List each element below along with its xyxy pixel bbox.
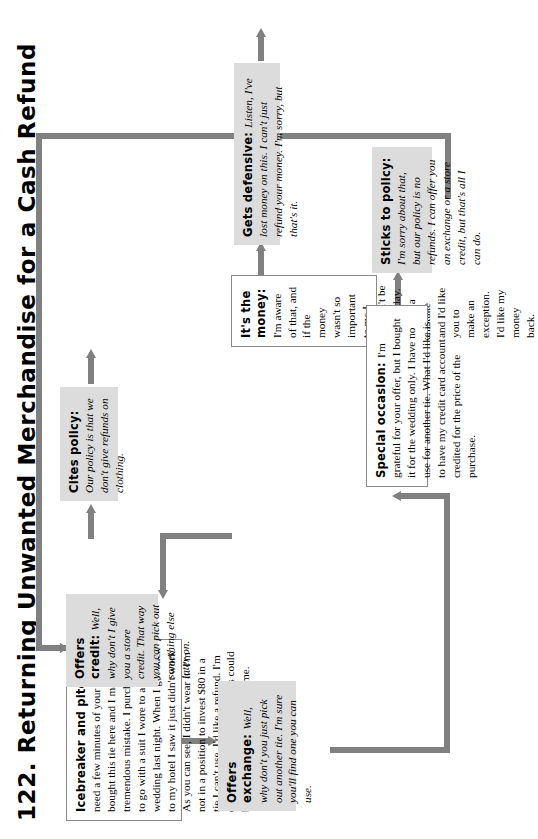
connector-gets-defensive-to-exit-arrow [256, 28, 266, 37]
node-offers-credit-body: Well, why don't I give you a store credi… [89, 605, 191, 679]
node-cites-policy-body: Our policy is that we don't give refunds… [83, 398, 125, 493]
connector-offers-exchange-to-special-occasion-h [444, 493, 450, 753]
connector-cites-policy-to-its-the-money-stem [88, 356, 94, 384]
connector-sticks-to-policy-to-offers-credit-h-top [36, 133, 42, 651]
node-its-the-money-label: It's the money: [239, 288, 268, 338]
node-special-occasion-label: Special occasion: [374, 358, 388, 478]
connector-icebreaker-to-cites-policy-arrow [86, 504, 96, 513]
node-gets-defensive-label: Gets defensive: [241, 128, 255, 237]
connector-icebreaker-to-cites-policy-stem [88, 511, 94, 539]
connector-offers-credit-to-its-the-money-arrow2 [158, 590, 168, 599]
node-cites-policy-label: Cites policy: [67, 410, 81, 493]
node-offers-exchange[interactable]: Offers exchange: Well, why don't you jus… [218, 681, 296, 811]
node-its-the-money[interactable]: It's the money: I'm aware of that, and i… [231, 275, 377, 347]
node-offers-credit[interactable]: Offers credit: Well, why don't I give yo… [66, 594, 158, 687]
node-offers-exchange-label: Offers exchange: [225, 730, 254, 803]
node-special-occasion-body: I'm grateful for your offer, but I bough… [375, 318, 477, 478]
node-sticks-to-policy-body: I'm sorry about that, but our policy is … [395, 160, 482, 265]
node-cites-policy[interactable]: Cites policy: Our policy is that we don'… [60, 387, 118, 501]
node-special-occasion[interactable]: Special occasion: I'm grateful for your … [366, 305, 428, 487]
node-sticks-to-policy-label: Sticks to policy: [379, 157, 393, 265]
connector-its-the-money-to-gets-defensive-stem [258, 249, 264, 277]
connector-offers-credit-to-its-the-money-h [160, 533, 166, 591]
connector-offers-exchange-to-special-occasion-v [330, 747, 450, 753]
connector-gets-defensive-to-exit-stem [258, 35, 264, 61]
connector-cites-policy-to-its-the-money-arrow [86, 349, 96, 358]
node-sticks-to-policy[interactable]: Sticks to policy: I'm sorry about that, … [372, 147, 432, 273]
node-offers-credit-label: Offers credit: [73, 630, 102, 679]
connector-offers-exchange-to-special-occasion-arrow [392, 491, 401, 501]
node-gets-defensive[interactable]: Gets defensive: Listen, I've lost money … [234, 63, 280, 245]
connector-offers-credit-to-its-the-money-v [160, 533, 232, 539]
connector-offers-exchange-to-special-occasion-v2 [400, 493, 450, 499]
